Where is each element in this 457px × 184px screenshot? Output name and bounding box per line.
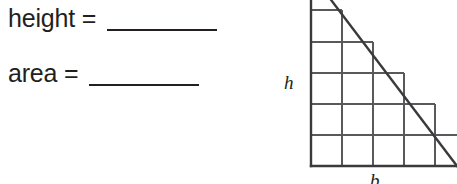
area-answer-blank[interactable] [89,84,199,86]
height-label-h: h [284,72,294,94]
prompt-area-label: area = [8,59,78,88]
worksheet-page: height = area = [0,0,457,184]
height-answer-blank[interactable] [107,29,217,31]
triangle-figure: h b [270,0,457,184]
base-label-b: b [370,170,380,184]
prompt-list: height = area = [0,0,280,184]
prompt-height-label: height = [8,4,96,33]
prompt-area: area = [8,59,199,88]
grid-lines [311,10,457,166]
prompt-height: height = [8,4,217,33]
triangle-grid-diagram [270,0,457,184]
